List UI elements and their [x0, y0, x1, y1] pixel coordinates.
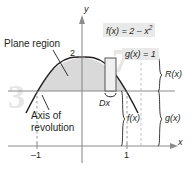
axis-of-revolution-label: Axis of revolution: [31, 110, 74, 133]
y-axis-arrowhead: [79, 15, 85, 24]
axis-of-revolution-line2: revolution: [31, 122, 74, 133]
y-tick-label-2: 2: [70, 48, 75, 58]
svg-text:3: 3: [8, 78, 25, 115]
x-axis-arrowhead: [170, 143, 178, 149]
figure-container: 3 7: [0, 0, 192, 178]
x-tick-label-pos1: 1: [124, 150, 129, 160]
delta-x-label: Dx: [99, 98, 110, 108]
f-equation-label: f(x) = 2 – x2: [103, 23, 155, 37]
g-of-x-label: g(x): [165, 113, 181, 123]
R-of-x-brace: [158, 58, 162, 91]
delta-x-brace: [105, 93, 116, 97]
axis-of-revolution-leader: [42, 95, 49, 110]
g-of-x-brace: [158, 91, 162, 146]
g-equation-label: g(x) = 1: [122, 48, 159, 60]
R-of-x-label: R(x): [165, 69, 182, 79]
f-of-x-brace: [121, 91, 125, 146]
y-axis-label: y: [84, 4, 89, 14]
f-of-x-label: f(x): [127, 113, 140, 123]
axis-of-revolution-line1: Axis of: [31, 110, 61, 121]
x-tick-label-neg1: –1: [31, 150, 41, 160]
x-axis-label: x: [178, 137, 183, 147]
plane-region-label: Plane region: [4, 38, 60, 50]
f-equation-exponent: 2: [149, 24, 153, 31]
f-equation-text: f(x) = 2 – x: [106, 26, 149, 36]
representative-rectangle: [105, 58, 116, 91]
figure-graphics: 3 7: [0, 0, 192, 178]
